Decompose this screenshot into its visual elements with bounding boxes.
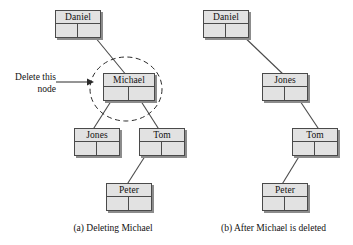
node-jones-b[interactable]: Jones [262, 73, 308, 101]
bst-deletion-figure: Daniel Michael Jones Tom [0, 0, 353, 245]
node-pointer-cells [203, 23, 249, 38]
left-pointer-cell[interactable] [263, 87, 285, 100]
node-label: Tom [139, 128, 185, 141]
right-pointer-cell[interactable] [315, 142, 337, 155]
node-shadow-bottom [105, 101, 157, 103]
left-pointer-cell[interactable] [293, 142, 315, 155]
caption-panel-b: (b) After Michael is deleted [196, 223, 351, 233]
node-shadow-bottom [294, 156, 340, 158]
node-shadow-right [338, 130, 340, 156]
node-shadow-right [249, 12, 251, 38]
node-pointer-cells [106, 196, 152, 211]
node-pointer-cells [262, 86, 308, 101]
node-pointer-cells [55, 23, 101, 38]
node-label: Jones [262, 73, 308, 86]
node-label: Daniel [203, 10, 249, 23]
right-pointer-cell[interactable] [97, 142, 119, 155]
delete-annotation-line1: Delete this [6, 71, 56, 83]
node-shadow-bottom [76, 156, 122, 158]
right-pointer-cell[interactable] [285, 87, 307, 100]
left-pointer-cell[interactable] [140, 142, 162, 155]
node-shadow-right [308, 75, 310, 101]
node-label: Jones [74, 128, 120, 141]
node-pointer-cells [139, 141, 185, 156]
node-shadow-bottom [264, 101, 310, 103]
node-daniel-b[interactable]: Daniel [203, 10, 249, 38]
node-peter-a[interactable]: Peter [106, 183, 152, 211]
node-label: Peter [106, 183, 152, 196]
panel-a-edges [90, 31, 160, 186]
node-label: Tom [292, 128, 338, 141]
node-pointer-cells [103, 86, 155, 101]
node-shadow-right [155, 75, 157, 101]
caption-panel-a: (a) Deleting Michael [38, 223, 188, 233]
right-pointer-cell[interactable] [285, 197, 307, 210]
node-pointer-cells [74, 141, 120, 156]
right-pointer-cell[interactable] [162, 142, 184, 155]
left-pointer-cell[interactable] [56, 24, 78, 37]
node-shadow-right [185, 130, 187, 156]
node-shadow-right [120, 130, 122, 156]
right-pointer-cell[interactable] [129, 87, 154, 100]
delete-annotation-arrow [56, 79, 94, 86]
node-shadow-bottom [108, 211, 154, 213]
node-daniel-a[interactable]: Daniel [55, 10, 101, 38]
right-pointer-cell[interactable] [78, 24, 100, 37]
node-shadow-right [101, 12, 103, 38]
node-shadow-right [152, 185, 154, 211]
right-pointer-cell[interactable] [129, 197, 151, 210]
node-label: Peter [262, 183, 308, 196]
node-shadow-bottom [205, 38, 251, 40]
node-shadow-bottom [264, 211, 310, 213]
left-pointer-cell[interactable] [75, 142, 97, 155]
left-pointer-cell[interactable] [104, 87, 129, 100]
left-pointer-cell[interactable] [107, 197, 129, 210]
node-shadow-right [308, 185, 310, 211]
delete-annotation-text: Delete this node [6, 71, 56, 95]
node-tom-b[interactable]: Tom [292, 128, 338, 156]
node-jones-a[interactable]: Jones [74, 128, 120, 156]
delete-annotation-line2: node [6, 83, 56, 95]
left-pointer-cell[interactable] [263, 197, 285, 210]
right-pointer-cell[interactable] [226, 24, 248, 37]
left-pointer-cell[interactable] [204, 24, 226, 37]
node-pointer-cells [262, 196, 308, 211]
node-michael-a[interactable]: Michael [103, 73, 155, 101]
node-shadow-bottom [57, 38, 103, 40]
node-peter-b[interactable]: Peter [262, 183, 308, 211]
node-label: Michael [103, 73, 155, 86]
node-tom-a[interactable]: Tom [139, 128, 185, 156]
node-label: Daniel [55, 10, 101, 23]
node-pointer-cells [292, 141, 338, 156]
panel-b-edges [238, 31, 320, 186]
node-shadow-bottom [141, 156, 187, 158]
